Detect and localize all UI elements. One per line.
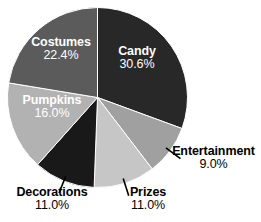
pie-chart-svg — [0, 0, 261, 222]
pie-chart: Costumes 22.4% Candy 30.6% Pumpkins 16.0… — [0, 0, 261, 222]
pie-slice-group — [8, 8, 188, 188]
pie-slice-costumes — [9, 8, 98, 98]
